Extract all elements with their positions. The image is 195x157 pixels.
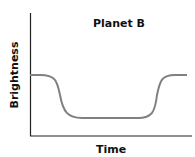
x-axis-label: Time <box>96 143 126 156</box>
chart: Planet B Brightness Time <box>0 0 195 157</box>
brightness-curve <box>30 75 187 118</box>
chart-title: Planet B <box>93 17 145 30</box>
y-axis-label: Brightness <box>8 41 21 108</box>
